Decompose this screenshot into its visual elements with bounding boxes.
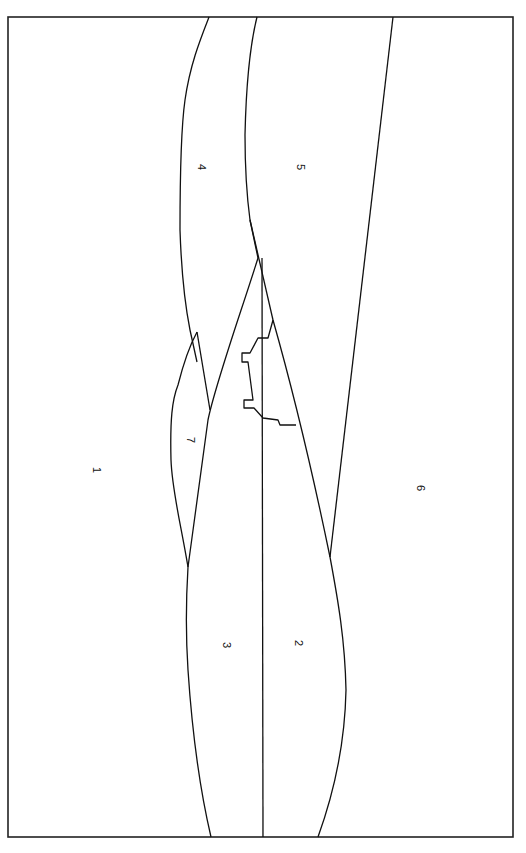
boundary-4-3 bbox=[188, 258, 258, 567]
region-7-inner-boundary bbox=[197, 332, 210, 410]
boundary-5-6 bbox=[330, 17, 393, 557]
diagram-svg bbox=[0, 0, 526, 853]
boundary-4-5 bbox=[245, 17, 258, 258]
diagram-frame bbox=[8, 17, 513, 837]
region-label-3: 3 bbox=[221, 639, 233, 651]
center-vertical-line bbox=[262, 258, 263, 837]
diagram-canvas: 1 2 3 4 5 6 7 bbox=[0, 0, 526, 853]
region-label-1: 1 bbox=[91, 464, 103, 476]
region-label-7: 7 bbox=[185, 434, 197, 446]
boundary-3-1 bbox=[187, 567, 212, 837]
region-label-4: 4 bbox=[196, 161, 208, 173]
region-label-5: 5 bbox=[295, 161, 307, 173]
region-label-6: 6 bbox=[415, 482, 427, 494]
boundary-1-4 bbox=[180, 17, 209, 362]
boundary-2-6 bbox=[273, 320, 346, 837]
region-label-2: 2 bbox=[293, 637, 305, 649]
